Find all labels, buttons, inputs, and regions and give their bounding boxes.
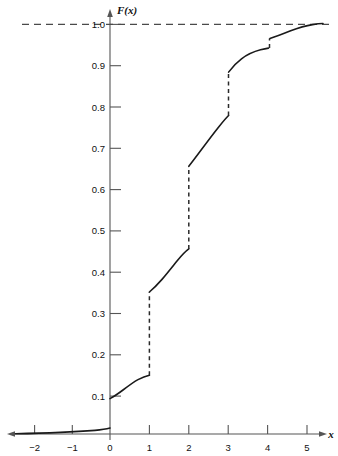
- y-tick-label-0.9: 0.9: [92, 60, 105, 71]
- x-tick-label-4: 4: [265, 442, 270, 453]
- curve-seg-3-to-4: [229, 48, 269, 72]
- cdf-curve: [16, 24, 324, 434]
- y-tick-label-0.7: 0.7: [92, 143, 105, 154]
- x-tick-label--2: −2: [29, 442, 40, 453]
- y-tick-labels: 1.0 0.9 0.8 0.7 0.6 0.5 0.4 0.3 0.2 0.1: [92, 19, 105, 402]
- y-tick-label-0.1: 0.1: [92, 391, 105, 402]
- x-tick-label-1: 1: [147, 442, 152, 453]
- x-axis-label: x: [327, 428, 334, 440]
- x-axis-right-arrow-icon: [319, 431, 327, 437]
- y-tick-label-0.8: 0.8: [92, 102, 105, 113]
- curve-seg-1-to-2: [149, 249, 188, 292]
- curve-seg-2-to-3: [189, 116, 229, 167]
- axes-group: [7, 9, 327, 440]
- y-tick-label-0.5: 0.5: [92, 225, 105, 236]
- y-axis-label: F(x): [116, 4, 137, 17]
- x-tick-labels: −2 −1 0 1 2 3 4 5: [29, 442, 309, 453]
- y-tick-label-0.3: 0.3: [92, 308, 105, 319]
- x-tick-label--1: −1: [67, 442, 78, 453]
- curve-seg-0-to-1: [110, 375, 149, 398]
- y-axis-arrow-icon: [107, 9, 113, 17]
- x-tick-marks: [35, 425, 307, 434]
- y-tick-label-0.4: 0.4: [92, 267, 105, 278]
- x-tick-label-3: 3: [226, 442, 231, 453]
- y-tick-label-0.6: 0.6: [92, 184, 105, 195]
- curve-seg-4-to-5: [270, 24, 323, 39]
- x-tick-label-2: 2: [186, 442, 191, 453]
- y-tick-label-0.2: 0.2: [92, 349, 105, 360]
- y-tick-label-1.0: 1.0: [92, 19, 105, 30]
- x-tick-label-0: 0: [107, 442, 112, 453]
- y-tick-marks: [110, 24, 121, 396]
- chart-figure: 1.0 0.9 0.8 0.7 0.6 0.5 0.4 0.3 0.2 0.1 …: [0, 0, 338, 456]
- curve-left-tail: [16, 428, 111, 434]
- x-axis-left-arrow-icon: [7, 431, 15, 437]
- jump-lines: [149, 39, 269, 376]
- cdf-plot: 1.0 0.9 0.8 0.7 0.6 0.5 0.4 0.3 0.2 0.1 …: [0, 0, 338, 456]
- x-tick-label-5: 5: [304, 442, 309, 453]
